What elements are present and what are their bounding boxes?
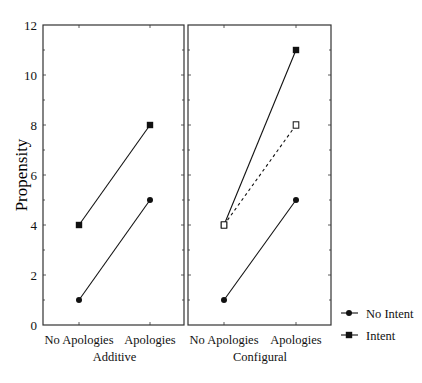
y-tick-label: 6 [31, 168, 38, 183]
interaction-chart: 024681012 No ApologiesApologiesAdditiveN… [0, 0, 422, 383]
open-square-marker-icon [221, 222, 227, 228]
series-line [79, 125, 150, 225]
series-line [224, 125, 296, 225]
y-tick-label: 4 [31, 218, 38, 233]
y-tick-label: 0 [31, 318, 38, 333]
legend: No IntentIntent [341, 307, 414, 343]
y-tick-label: 12 [24, 18, 37, 33]
y-tick-label: 10 [24, 68, 37, 83]
square-marker-icon [293, 47, 299, 53]
x-category-label: No Apologies [189, 333, 258, 347]
series-line [224, 50, 296, 225]
legend-label: Intent [366, 329, 396, 343]
circle-marker-icon [147, 197, 153, 203]
square-marker-icon [346, 332, 352, 338]
square-marker-icon [76, 222, 82, 228]
circle-marker-icon [221, 297, 227, 303]
panel-title-additive: Additive [93, 350, 137, 364]
open-square-marker-icon [293, 122, 299, 128]
y-tick-label: 2 [31, 268, 38, 283]
x-category-label: Apologies [124, 333, 176, 347]
circle-marker-icon [76, 297, 82, 303]
circle-marker-icon [346, 310, 352, 316]
panel-frame-additive [43, 25, 184, 325]
square-marker-icon [147, 122, 153, 128]
legend-label: No Intent [366, 307, 414, 321]
series-line [79, 200, 150, 300]
y-tick-label: 8 [31, 118, 38, 133]
x-axis-labels: No ApologiesApologiesAdditiveNo Apologie… [44, 333, 321, 364]
y-axis-label: Propensity [12, 138, 31, 211]
circle-marker-icon [293, 197, 299, 203]
series-line [224, 200, 296, 300]
x-category-label: No Apologies [44, 333, 113, 347]
panel-title-configural: Configural [233, 350, 288, 364]
x-category-label: Apologies [270, 333, 322, 347]
